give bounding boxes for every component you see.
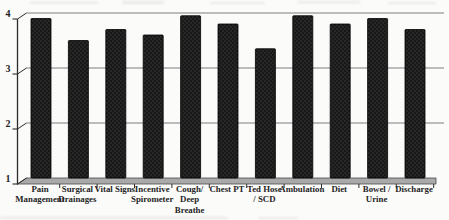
bar-vital-signs	[106, 30, 126, 179]
x-axis-label-incentive-spirometer: IncentiveSpirometer	[131, 184, 173, 204]
survey-bar-chart: 1234 PainManagementSurgicalDrainagesVita…	[0, 0, 449, 220]
x-axis-label-chest-pt: Chest PT	[210, 184, 245, 194]
y-axis-tick-label: 4	[6, 8, 11, 19]
bar-surgical-drainages	[68, 41, 88, 179]
bar-ted-hose-scd	[255, 49, 275, 178]
x-axis-label-surgical-drainages: SurgicalDrainages	[58, 184, 97, 204]
scan-smudge	[30, 2, 98, 5]
scan-smudge	[388, 2, 436, 4]
scan-smudge	[122, 1, 164, 4]
bar-cough-deep-breathe	[181, 16, 201, 178]
bar-diet	[330, 24, 350, 178]
bar-incentive-spirometer	[143, 35, 163, 178]
y-axis-tick-label: 1	[6, 173, 11, 184]
x-axis-label-bowel-urine: Bowel /Urine	[363, 184, 391, 204]
x-axis-label-vital-signs: Vital Signs	[95, 184, 136, 194]
scan-smudge	[0, 217, 228, 219]
scan-smudge	[210, 2, 265, 4]
scan-smudge	[258, 217, 298, 219]
x-axis-label-ambulation: Ambulation	[279, 184, 324, 194]
bar-pain-management	[31, 19, 51, 179]
x-axis-label-discharge: Discharge	[395, 184, 433, 194]
y-axis-tick-label: 3	[6, 63, 11, 74]
x-axis-label-diet: Diet	[331, 184, 347, 194]
scanned-bar-chart-page: 1234 PainManagementSurgicalDrainagesVita…	[0, 0, 449, 220]
bar-ambulation	[293, 16, 313, 178]
bar-discharge	[405, 30, 425, 179]
bar-chest-pt	[218, 24, 238, 178]
y-axis-tick-label: 2	[6, 118, 11, 129]
scan-smudge	[298, 1, 360, 4]
bar-bowel-urine	[368, 19, 388, 179]
